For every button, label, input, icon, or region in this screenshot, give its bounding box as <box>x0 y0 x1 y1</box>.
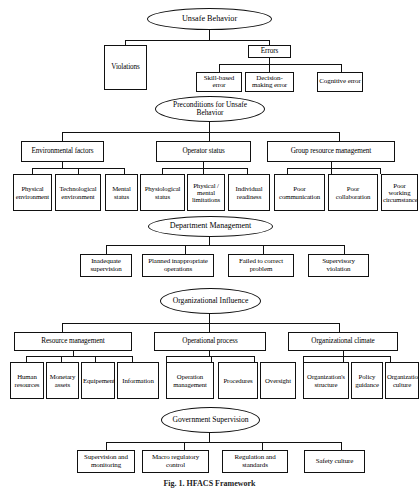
connector <box>26 356 132 357</box>
node-label: Organizational climate <box>290 338 396 346</box>
node-human-resources: Human resources <box>10 362 44 399</box>
node-label: Information <box>119 377 157 384</box>
node-organizational-culture: Organizational culture <box>385 362 419 399</box>
node-unsafe-behavior: Unsafe Behavior <box>147 8 272 30</box>
connector <box>262 442 263 450</box>
connector <box>166 356 254 357</box>
node-decision-making-error: Decision-making error <box>245 72 294 92</box>
node-label: Procedures <box>220 377 256 384</box>
node-label: Macro regulatory control <box>144 454 207 469</box>
node-poor-working-circumstance: Poor working circumstance <box>381 174 418 211</box>
node-label: Monetary assets <box>48 373 77 387</box>
connector <box>125 40 270 41</box>
node-label: Resource management <box>16 338 130 346</box>
node-group-resource-management: Group resource management <box>267 141 395 162</box>
node-organizational-influence: Organizational Influence <box>160 288 261 314</box>
node-label: Decision-making error <box>247 75 292 90</box>
node-monetary-assets: Monetary assets <box>46 362 79 399</box>
node-label: Regulation and standards <box>224 454 286 469</box>
node-label: Failed to correct problem <box>230 258 292 273</box>
node-violations: Violations <box>104 45 147 90</box>
node-label: Preconditions for Unsafe Behavior <box>162 101 258 117</box>
connector <box>341 442 342 450</box>
connector <box>219 64 220 72</box>
connector <box>303 356 390 357</box>
connector <box>287 168 380 169</box>
connector <box>106 442 107 450</box>
node-label: Group resource management <box>269 148 393 156</box>
connector <box>344 245 345 254</box>
connector <box>209 122 210 132</box>
node-failed-to-correct-problem: Failed to correct problem <box>228 254 294 277</box>
node-physiological-status: Physiological status <box>140 174 185 211</box>
hfacs-diagram: Unsafe Behavior Violations Errors Skill-… <box>0 0 419 488</box>
node-operational-process: Operational process <box>154 332 266 351</box>
connector <box>341 64 342 72</box>
connector <box>263 245 264 254</box>
node-label: Oversight <box>262 377 294 384</box>
node-label: Cognitive error <box>319 78 361 85</box>
connector <box>185 245 186 254</box>
node-equipement: Equipement <box>81 362 115 399</box>
node-inadequate-supervision: Inadequate supervision <box>80 254 132 277</box>
node-preconditions-for-unsafe-behavior: Preconditions for Unsafe Behavior <box>155 96 265 122</box>
node-label: Physical / mental limitations <box>189 182 223 203</box>
connector <box>106 442 341 443</box>
node-organizational-climate: Organizational climate <box>288 332 398 351</box>
node-operation-management: Operation management <box>166 362 214 399</box>
node-procedures: Procedures <box>218 362 258 399</box>
connector <box>209 132 210 141</box>
node-label: Safety culture <box>306 458 363 465</box>
connector <box>106 245 344 246</box>
connector <box>209 30 210 40</box>
node-operator-status: Operator status <box>156 141 251 162</box>
connector <box>209 237 210 245</box>
node-resource-management: Resource management <box>14 332 132 351</box>
node-label: Unsafe Behavior <box>148 15 271 24</box>
node-environmental-factors: Environmental factors <box>21 141 104 162</box>
node-label: Government Supervision <box>162 416 259 424</box>
node-label: Organizational culture <box>387 373 417 387</box>
node-macro-regulatory-control: Macro regulatory control <box>142 450 209 473</box>
node-label: Poor working circumstance <box>383 182 416 203</box>
connector <box>269 64 270 72</box>
node-individual-readiness: Individual readiness <box>228 174 270 211</box>
node-label: Operator status <box>158 148 249 156</box>
node-label: Poor communication <box>276 185 323 199</box>
node-label: Department Management <box>149 222 272 230</box>
connector <box>62 323 339 324</box>
connector <box>209 314 210 323</box>
node-label: Technological environment <box>57 185 99 199</box>
connector <box>106 245 107 254</box>
node-label: Organizational Influence <box>161 297 260 305</box>
node-planned-inappropriate-operations: Planned inappropriate operations <box>142 254 214 277</box>
connector <box>62 323 63 332</box>
node-supervision-and-monitoring: Supervision and monitoring <box>77 450 135 473</box>
connector <box>339 323 340 332</box>
node-label: Policy guidance <box>353 373 381 387</box>
node-label: Violations <box>106 64 145 72</box>
node-information: Information <box>117 362 159 399</box>
node-oversight: Oversight <box>260 362 296 399</box>
node-label: Inadequate supervision <box>82 258 130 273</box>
node-cognitive-error: Cognitive error <box>317 72 363 92</box>
connector <box>339 132 340 141</box>
node-regulation-and-standards: Regulation and standards <box>222 450 288 473</box>
node-label: Operational process <box>156 338 264 346</box>
node-label: Planned inappropriate operations <box>144 258 212 273</box>
node-label: Individual readiness <box>230 185 268 199</box>
node-poor-collaboration: Poor collaboration <box>328 174 378 211</box>
node-physical-environment: Physical environment <box>13 174 52 211</box>
node-label: Physical environment <box>15 185 50 199</box>
node-mental-status: Mental status <box>105 174 138 211</box>
node-label: Poor collaboration <box>330 185 376 199</box>
node-policy-guidance: Policy guidance <box>351 362 383 399</box>
node-label: Human resources <box>12 373 42 387</box>
connector <box>219 64 341 65</box>
node-label: Physiological status <box>142 185 183 199</box>
node-label: Organization's structure <box>305 373 347 387</box>
connector <box>62 132 339 133</box>
node-label: Supervision and monitoring <box>79 454 133 469</box>
node-government-supervision: Government Supervision <box>161 407 260 433</box>
node-label: Environmental factors <box>23 148 102 156</box>
